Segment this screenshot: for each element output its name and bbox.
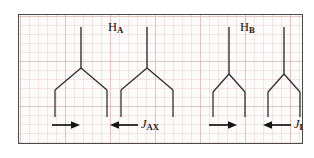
h-a-subtree-left [55,27,107,117]
label-h-a-letter: H [108,20,117,34]
h-a-left-branch-r [81,68,107,90]
label-h-b-subscript: B [249,25,255,35]
h-a-right-branch-r [147,68,173,90]
arrow-head-left [263,121,272,129]
label-j-bx-subscript: BX [300,122,303,132]
h-b-right-branch-r [284,74,300,92]
h-a-right-branch-l [121,68,147,90]
plate-inner: HA HB JAX JBX [19,15,302,143]
coupling-arrow-right-b [209,121,237,129]
h-b-subtree-right [268,27,300,117]
coupling-arrow-right-a [52,121,80,129]
diagram-root: HA HB JAX JBX [0,0,314,158]
multiplet-h-a [55,27,173,117]
label-j-ax-letter: J [141,117,147,131]
h-a-left-branch-l [55,68,81,90]
label-h-a: HA [108,21,123,34]
multiplet-h-b [213,27,300,117]
coupling-arrow-left-a [110,121,138,129]
graph-paper-plate: HA HB JAX JBX [18,14,303,144]
splitting-tree-svg [19,15,303,144]
arrow-head-right [228,121,237,129]
label-h-b: HB [240,21,255,34]
label-j-bx: JBX [294,118,303,131]
arrow-head-left [110,121,119,129]
label-j-bx-letter: J [294,117,300,131]
coupling-arrow-left-b [263,121,291,129]
label-j-ax-subscript: AX [147,122,160,132]
label-h-b-letter: H [240,20,249,34]
h-b-left-branch-l [213,74,229,92]
h-b-subtree-left [213,27,245,117]
label-j-ax: JAX [141,118,159,131]
h-b-right-branch-l [268,74,284,92]
label-h-a-subscript: A [117,25,123,35]
h-a-subtree-right [121,27,173,117]
h-b-left-branch-r [229,74,245,92]
arrow-head-right [71,121,80,129]
